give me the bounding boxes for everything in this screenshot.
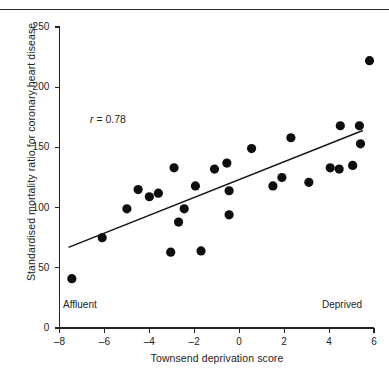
data-point <box>169 163 178 172</box>
data-point <box>134 185 143 194</box>
data-point <box>277 173 286 182</box>
y-tick-label-100: 100 <box>24 202 50 213</box>
data-point <box>326 163 335 172</box>
data-point <box>304 178 313 187</box>
data-point <box>286 133 295 142</box>
data-point <box>222 158 231 167</box>
data-point <box>196 246 205 255</box>
data-point <box>225 210 234 219</box>
data-point <box>335 164 344 173</box>
data-point <box>166 248 175 257</box>
x-tick-label--8: –8 <box>48 336 72 347</box>
x-axis-title: Townsend deprivation score <box>59 352 375 364</box>
data-point <box>174 217 183 226</box>
x-tick-label-4: 4 <box>317 336 341 347</box>
data-point <box>247 144 256 153</box>
x-tick-label--2: –2 <box>182 336 206 347</box>
data-point <box>210 164 219 173</box>
y-tick-label-150: 150 <box>24 141 50 152</box>
x-tick-label--4: –4 <box>137 336 161 347</box>
data-point <box>365 56 374 65</box>
data-point <box>154 189 163 198</box>
y-tick-label-250: 250 <box>24 21 50 32</box>
deprived-label: Deprived <box>322 299 362 310</box>
data-point <box>355 121 364 130</box>
chart-figure: Standardised mortality ratio for coronar… <box>0 0 389 377</box>
correlation-annotation: r = 0.78 <box>90 113 126 125</box>
data-point <box>98 233 107 242</box>
data-point <box>268 181 277 190</box>
data-point <box>348 161 357 170</box>
y-tick-label-50: 50 <box>24 262 50 273</box>
scatter-plot-canvas <box>0 0 389 377</box>
plot-axes <box>60 27 375 328</box>
data-point <box>122 204 131 213</box>
y-tick-label-0: 0 <box>24 322 50 333</box>
correlation-value: = 0.78 <box>94 113 126 125</box>
x-tick-label-2: 2 <box>272 336 296 347</box>
y-tick-label-200: 200 <box>24 81 50 92</box>
x-tick-label-6: 6 <box>362 336 386 347</box>
x-tick-label-0: 0 <box>227 336 251 347</box>
data-point <box>336 121 345 130</box>
x-tick-label--6: –6 <box>92 336 116 347</box>
data-point <box>225 186 234 195</box>
regression-line <box>68 131 362 248</box>
data-point <box>180 204 189 213</box>
data-point <box>356 139 365 148</box>
data-point <box>145 192 154 201</box>
affluent-label: Affluent <box>63 299 97 310</box>
data-point <box>191 181 200 190</box>
data-point <box>67 274 76 283</box>
